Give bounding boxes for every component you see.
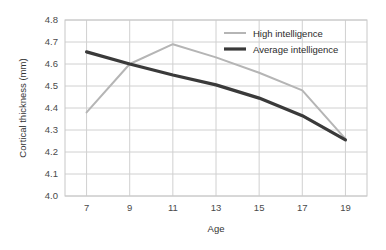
y-tick-label: 4.5	[45, 80, 58, 91]
legend-label: Average intelligence	[253, 44, 338, 55]
x-tick-label: 13	[211, 202, 222, 213]
x-tick-label: 11	[168, 202, 178, 213]
y-tick-label: 4.3	[45, 124, 58, 135]
y-tick-label: 4.4	[45, 102, 58, 113]
y-axis-title: Cortical thickness (mm)	[17, 58, 28, 157]
y-tick-label: 4.8	[45, 14, 58, 25]
x-tick-label: 19	[340, 202, 351, 213]
x-tick-label: 17	[297, 202, 308, 213]
x-tick-label: 7	[84, 202, 89, 213]
y-tick-label: 4.0	[45, 190, 58, 201]
y-tick-label: 4.6	[45, 58, 58, 69]
x-tick-label: 15	[254, 202, 265, 213]
legend-label: High intelligence	[253, 28, 323, 39]
x-axis-title: Age	[208, 223, 225, 234]
x-tick-label: 9	[127, 202, 132, 213]
y-tick-label: 4.7	[45, 36, 58, 47]
line-chart: 4.04.14.24.34.44.54.64.74.8 791113151719…	[0, 0, 386, 250]
y-tick-label: 4.2	[45, 146, 58, 157]
y-tick-label: 4.1	[45, 168, 58, 179]
chart-container: 4.04.14.24.34.44.54.64.74.8 791113151719…	[0, 0, 386, 250]
y-axis-tick-labels: 4.04.14.24.34.44.54.64.74.8	[45, 14, 58, 201]
